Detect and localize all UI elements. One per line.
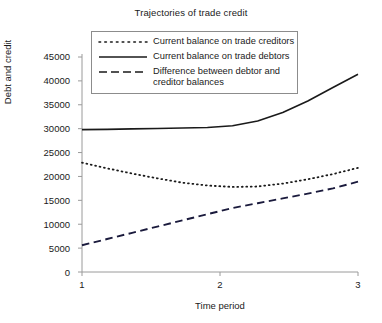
series-line [82, 163, 358, 187]
data-series-group [82, 74, 358, 245]
legend-label-continued: creditor balances [153, 77, 224, 87]
solid-line-icon [97, 51, 149, 63]
legend: Current balance on trade creditors Curre… [91, 31, 298, 94]
dashed-line-icon [97, 66, 149, 78]
dotted-line-icon [97, 36, 149, 48]
legend-label: Current balance on trade creditors [153, 36, 294, 46]
chart-figure: Trajectories of trade credit Debt and cr… [0, 0, 382, 323]
legend-label: Current balance on trade debtors [153, 51, 289, 61]
legend-label: Difference between debtor and [153, 66, 280, 76]
series-line [82, 182, 358, 246]
